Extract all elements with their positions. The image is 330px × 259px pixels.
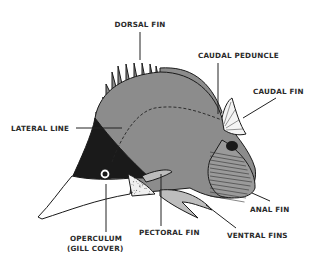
operculum-dot bbox=[139, 185, 140, 186]
label-lateral-line: LATERAL LINE bbox=[11, 124, 69, 133]
operculum-dot bbox=[133, 181, 134, 182]
leader-ventral-fins bbox=[206, 205, 236, 228]
operculum-dot bbox=[132, 184, 133, 185]
pupil bbox=[103, 172, 108, 177]
label-operculum-line1: OPERCULUM bbox=[70, 234, 122, 243]
fish-anatomy-diagram: DORSAL FIN CAUDAL PEDUNCLE CAUDAL FIN LA… bbox=[0, 0, 330, 259]
fish-illustration: DORSAL FIN CAUDAL PEDUNCLE CAUDAL FIN LA… bbox=[0, 0, 330, 259]
label-anal-fin: ANAL FIN bbox=[250, 205, 289, 214]
label-pectoral-fin: PECTORAL FIN bbox=[139, 228, 200, 237]
operculum-dot bbox=[136, 190, 137, 191]
operculum-dot bbox=[142, 185, 143, 186]
operculum-dot bbox=[148, 193, 149, 194]
operculum-dot bbox=[149, 193, 150, 194]
operculum-dot bbox=[134, 193, 135, 194]
label-dorsal-fin: DORSAL FIN bbox=[114, 20, 165, 29]
label-caudal-fin: CAUDAL FIN bbox=[253, 87, 304, 96]
operculum-dot bbox=[139, 186, 140, 187]
operculum-dot bbox=[145, 188, 146, 189]
operculum-dot bbox=[140, 187, 141, 188]
operculum-dot bbox=[144, 188, 145, 189]
operculum-dot bbox=[133, 185, 134, 186]
operculum-dot bbox=[141, 183, 142, 184]
label-operculum-line2: (GILL COVER) bbox=[67, 244, 123, 253]
leader-anal-fin bbox=[252, 193, 270, 201]
snout bbox=[38, 176, 132, 219]
operculum-dot bbox=[140, 181, 141, 182]
operculum-dot bbox=[138, 183, 139, 184]
operculum-dot bbox=[134, 178, 135, 179]
operculum-dot bbox=[134, 190, 135, 191]
operculum-dot bbox=[149, 191, 150, 192]
operculum-dot bbox=[143, 184, 144, 185]
operculum-dot bbox=[135, 192, 136, 193]
anal-fin-dark-spot bbox=[226, 141, 238, 151]
operculum-dot bbox=[139, 191, 140, 192]
label-caudal-peduncle: CAUDAL PEDUNCLE bbox=[198, 51, 279, 60]
operculum-dot bbox=[140, 185, 141, 186]
label-ventral-fins: VENTRAL FINS bbox=[227, 231, 288, 240]
operculum-dot bbox=[136, 181, 137, 182]
operculum-dot bbox=[132, 192, 133, 193]
leader-caudal-fin bbox=[243, 98, 276, 118]
